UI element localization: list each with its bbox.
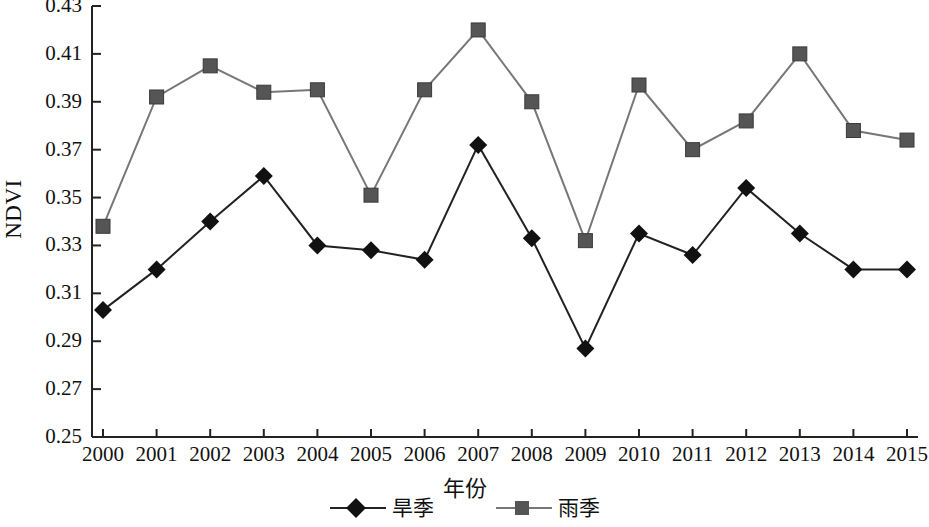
legend-swatch-square [496,499,552,517]
ndvi-line-chart: NDVI 0.250.270.290.310.330.350.370.390.4… [0,0,929,527]
legend-swatch-diamond [330,499,386,517]
x-axis-tick-labels: 2000200120022003200420052006200720082009… [0,0,929,527]
legend-label-dry-season: 旱季 [392,497,434,519]
x-tick-label: 2015 [872,443,929,465]
legend-label-rainy-season: 雨季 [558,497,600,519]
legend-entry-dry-season: 旱季 [330,497,434,519]
legend-entry-rainy-season: 雨季 [496,497,600,519]
chart-legend: 旱季 雨季 [0,497,929,519]
